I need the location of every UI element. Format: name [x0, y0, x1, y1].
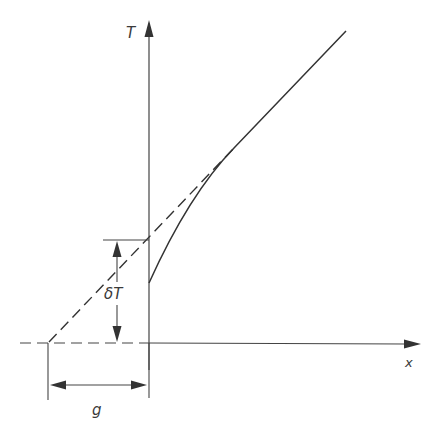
temperature-jump-dimension: δT — [103, 240, 149, 342]
jump-distance-label: g — [92, 401, 102, 419]
temperature-jump-label: δT — [104, 285, 124, 303]
arrow-down-icon — [113, 326, 122, 342]
position-axis: x — [20, 340, 421, 371]
temperature-axis: T — [126, 20, 154, 370]
arrow-left-icon — [50, 381, 66, 390]
temperature-axis-label: T — [126, 24, 137, 42]
arrow-up-icon — [113, 241, 122, 257]
axis-arrow-right-icon — [404, 340, 421, 349]
axis-arrow-up-icon — [145, 20, 154, 37]
temperature-profile-curve — [149, 31, 346, 283]
linear-extrapolation-line — [49, 148, 234, 342]
diagram-canvas: T x δT g — [0, 0, 437, 438]
position-axis-label: x — [404, 355, 413, 370]
arrow-right-icon — [131, 381, 147, 390]
jump-distance-dimension: g — [48, 343, 149, 419]
